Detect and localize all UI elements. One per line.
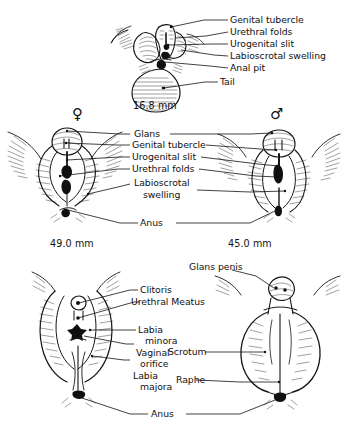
label-anal-pit-top: Anal pit bbox=[230, 63, 265, 73]
label-urogenital-slit-top: Urogenital slit bbox=[230, 39, 294, 49]
label-labia-majora-first: Labia bbox=[133, 371, 158, 381]
bottom-panel-drawing bbox=[32, 270, 340, 414]
label-urethral-folds-top: Urethral folds bbox=[230, 27, 292, 37]
label-vaginal-first: Vaginal bbox=[136, 348, 170, 358]
label-anus-middle: Anus bbox=[140, 218, 163, 228]
label-clitoris: Clitoris bbox=[140, 285, 172, 295]
measurement-45mm: 45.0 mm bbox=[228, 238, 272, 249]
top-panel-drawing bbox=[111, 20, 228, 112]
label-vaginal-orifice-second: orifice bbox=[140, 359, 168, 369]
bottom-female-drawing bbox=[32, 272, 120, 407]
top-anal-pit bbox=[139, 59, 182, 73]
female-symbol-middle: ♀ bbox=[72, 107, 83, 122]
label-genital-tubercle-top: Genital tubercle bbox=[230, 15, 304, 25]
male-symbol-middle: ♂ bbox=[270, 107, 283, 122]
measurement-16-8mm: 16.8 mm bbox=[133, 100, 177, 111]
label-labioscrotal-middle: Labioscrotal bbox=[134, 178, 190, 188]
label-genital-tubercle-middle: Genital tubercle bbox=[132, 140, 206, 150]
label-labioscrotal-swelling-top: Labioscrotal swelling bbox=[230, 51, 326, 61]
label-anus-bottom: Anus bbox=[151, 409, 174, 419]
label-glans-penis: Glans penis bbox=[189, 262, 243, 272]
embryology-figure bbox=[0, 0, 347, 439]
label-tail-top: Tail bbox=[220, 77, 235, 87]
label-raphe: Raphe bbox=[176, 375, 205, 385]
label-swelling-middle: swelling bbox=[143, 190, 180, 200]
label-labia-minora-second: minora bbox=[145, 336, 177, 346]
label-scrotum: Scrotum bbox=[168, 347, 207, 357]
label-urogenital-slit-middle: Urogenital slit bbox=[132, 152, 196, 162]
label-urethral-folds-middle: Urethral folds bbox=[132, 164, 194, 174]
measurement-49mm: 49.0 mm bbox=[50, 238, 94, 249]
label-glans-middle: Glans bbox=[134, 129, 160, 139]
label-labia-majora-second: majora bbox=[140, 382, 172, 392]
top-panel-leader-lines bbox=[164, 20, 228, 88]
top-left-limb bbox=[111, 26, 133, 49]
middle-male-drawing bbox=[218, 130, 340, 222]
bottom-male-drawing bbox=[215, 276, 340, 409]
label-urethral-meatus: Urethral Meatus bbox=[131, 297, 205, 307]
label-labia-minora-first: Labia bbox=[138, 325, 163, 335]
